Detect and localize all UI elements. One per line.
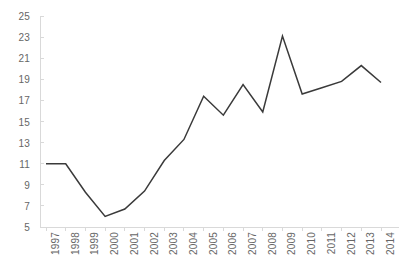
x-axis-tick-label: 2001	[129, 232, 140, 255]
x-axis-tick-label: 2006	[227, 232, 238, 255]
x-axis-tick-label: 2004	[188, 232, 199, 255]
x-axis-tick-label: 2002	[149, 232, 160, 255]
x-axis-tick-label: 2014	[385, 232, 396, 255]
x-axis-tick-label: 2009	[286, 232, 297, 255]
x-axis-tick-label: 2012	[346, 232, 357, 255]
x-axis-tick-label: 2008	[267, 232, 278, 255]
x-axis-tick-labels: 1997199819992000200120022003200420052006…	[0, 0, 407, 279]
x-axis-tick-label: 1997	[50, 232, 61, 255]
line-chart: 5791113151719212325 19971998199920002001…	[0, 0, 407, 279]
x-axis-tick-label: 1998	[70, 232, 81, 255]
x-axis-tick-label: 2013	[365, 232, 376, 255]
x-axis-tick-label: 2007	[247, 232, 258, 255]
x-axis-tick-label: 2003	[168, 232, 179, 255]
x-axis-tick-label: 1999	[89, 232, 100, 255]
x-axis-tick-label: 2005	[208, 232, 219, 255]
x-axis-tick-label: 2000	[109, 232, 120, 255]
x-axis-tick-label: 2011	[326, 232, 337, 254]
x-axis-tick-label: 2010	[306, 232, 317, 255]
